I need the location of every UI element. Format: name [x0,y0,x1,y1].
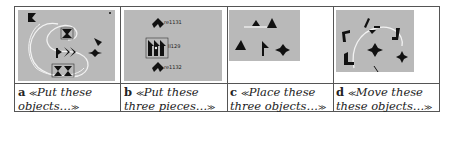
shape-label: re1131 [164,19,182,25]
caption-d: d ≪Move these these objects…≫ [336,86,440,114]
close-quote: ≫ [318,103,326,112]
table-divider [14,83,440,84]
open-quote: ≪ [348,89,356,98]
close-quote: ≫ [207,103,215,112]
panel-letter: a [18,85,25,99]
open-quote: ≪ [136,89,144,98]
shape-label: ll129 [168,43,180,49]
shape-icon [367,43,383,57]
caption-a: a ≪Put these objects…≫ [18,86,118,114]
shape-icon [342,30,350,42]
shape-icon [252,20,260,26]
shape-icon [152,18,164,28]
table-divider [227,6,228,112]
panel-c-image [229,10,300,61]
panel-letter: c [230,85,237,99]
open-quote: ≪ [241,89,249,98]
caption-c: c ≪Place these three objects…≫ [230,86,330,114]
shape-icon [88,49,102,57]
shape-icon [275,44,290,56]
open-quote: ≪ [29,89,37,98]
panel-d-image [336,10,414,72]
shape-icon [267,18,277,28]
close-quote: ≫ [71,103,79,112]
shape-icon [152,62,164,72]
shape-icon [262,41,269,56]
table-divider [120,6,121,112]
panel-letter: d [336,85,344,99]
close-quote: ≫ [424,103,432,112]
shape-icon [28,13,36,22]
shape-icon [235,40,246,50]
panel-b-image: re1131 ll129 re1132 [124,10,222,81]
panel-a-image [18,10,115,81]
caption-b: b ≪Put these three pieces…≫ [124,86,224,114]
shape-label: re1132 [164,64,182,70]
shape-icon [62,29,72,38]
shape-icon [396,51,408,63]
table-divider [333,6,334,112]
panel-letter: b [124,85,132,99]
